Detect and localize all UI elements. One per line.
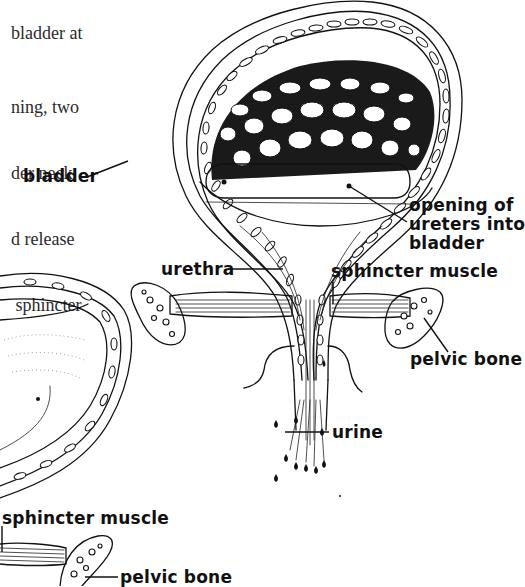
second-sphincter-illustration — [0, 526, 66, 566]
ureter-opening-left — [222, 180, 227, 185]
tissue-fold-left — [244, 346, 294, 388]
label-urine: urine — [332, 423, 383, 441]
label-sphincter-muscle-right: sphincter muscle — [331, 262, 498, 280]
label-opening-of-ureters: opening of ureters into bladder — [409, 196, 525, 253]
label-sphincter-muscle-left: sphincter muscle — [2, 509, 169, 527]
second-pelvic-bone-illustration — [60, 536, 112, 586]
label-line: ureters into — [409, 215, 525, 234]
pelvic-bone-right-illustration — [385, 288, 443, 348]
bladder-mucosa — [211, 60, 434, 180]
pelvic-bone-right-leader — [424, 318, 448, 352]
label-line: opening of — [409, 196, 525, 215]
second-bladder-illustration — [0, 274, 132, 498]
tissue-fold-right — [328, 346, 362, 392]
label-urethra: urethra — [161, 260, 235, 278]
label-line: bladder — [409, 234, 525, 253]
pelvic-bone-left-illustration — [131, 283, 185, 345]
urine-stream — [274, 360, 341, 497]
label-pelvic-bone-left: pelvic bone — [120, 568, 232, 586]
label-pelvic-bone-right: pelvic bone — [410, 350, 522, 368]
label-bladder: bladder — [23, 167, 98, 185]
